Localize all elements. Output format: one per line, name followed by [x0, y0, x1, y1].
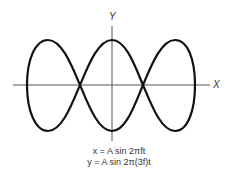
equation-x: x = A sin 2πft — [3, 146, 232, 157]
y-axis-label: Y — [109, 11, 116, 22]
lissajous-diagram: Y X x = A sin 2πft y = A sin 2π(3f)t — [0, 0, 232, 175]
x-axis-label: X — [213, 79, 220, 90]
equations-caption: x = A sin 2πft y = A sin 2π(3f)t — [3, 146, 232, 168]
equation-y: y = A sin 2π(3f)t — [3, 157, 232, 168]
